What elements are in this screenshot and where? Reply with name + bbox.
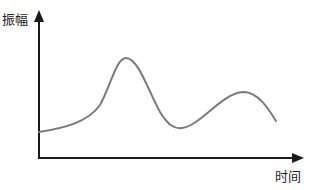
- chart-canvas: [0, 0, 311, 190]
- y-axis-label: 振幅: [2, 9, 27, 28]
- x-axis-arrow-icon: [292, 153, 304, 163]
- amplitude-curve: [39, 58, 276, 132]
- y-axis-arrow-icon: [34, 10, 44, 22]
- amplitude-time-chart: 振幅 时间: [0, 0, 311, 190]
- x-axis-label: 时间: [275, 166, 300, 185]
